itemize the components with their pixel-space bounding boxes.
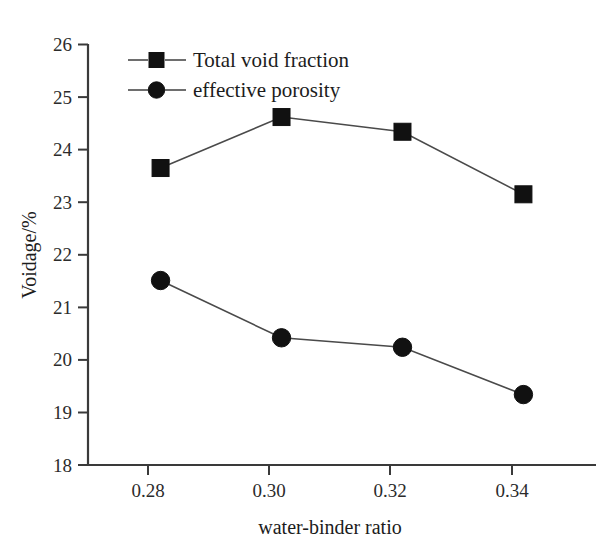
series-line-effective-porosity (161, 281, 524, 395)
x-tick-label-3: 0.34 (495, 480, 529, 501)
data-point-marker (152, 160, 169, 177)
circle-marker-icon (148, 82, 164, 98)
data-point-marker (515, 186, 532, 203)
y-tick-label-24: 24 (53, 139, 73, 160)
legend-label-0: Total void fraction (193, 48, 349, 72)
y-tick-label-25: 25 (53, 87, 72, 108)
y-axis-ticks (78, 45, 88, 466)
y-tick-label-20: 20 (53, 349, 72, 370)
y-tick-label-23: 23 (53, 192, 72, 213)
x-axis-ticks (148, 465, 512, 475)
y-tick-label-21: 21 (53, 297, 72, 318)
y-tick-label-26: 26 (53, 34, 72, 55)
legend-item-effective-porosity[interactable]: effective porosity (128, 78, 341, 102)
y-tick-label-19: 19 (53, 402, 72, 423)
legend-item-total-void-fraction[interactable]: Total void fraction (128, 48, 349, 72)
chart-figure: 26 25 24 23 22 21 20 19 18 0.28 0.30 0.3… (0, 0, 607, 551)
series-line-total-void-fraction (161, 117, 524, 194)
x-axis-title: water-binder ratio (258, 516, 401, 538)
data-point-marker (514, 385, 532, 403)
x-tick-label-2: 0.32 (373, 480, 406, 501)
y-axis-title: Voidage/% (18, 211, 41, 298)
series-markers-total-void-fraction (152, 109, 532, 203)
data-point-marker (151, 271, 169, 289)
series-markers-effective-porosity (151, 271, 532, 403)
y-tick-label-18: 18 (53, 455, 72, 476)
data-point-marker (273, 109, 290, 126)
data-point-marker (393, 338, 411, 356)
x-tick-label-0: 0.28 (131, 480, 164, 501)
x-tick-label-1: 0.30 (252, 480, 285, 501)
data-point-marker (394, 123, 411, 140)
data-point-marker (272, 329, 290, 347)
square-marker-icon (149, 53, 164, 68)
line-chart-canvas: 26 25 24 23 22 21 20 19 18 0.28 0.30 0.3… (0, 0, 607, 551)
legend: Total void fraction effective porosity (128, 48, 349, 102)
y-axis-tick-labels: 26 25 24 23 22 21 20 19 18 (53, 34, 73, 476)
x-axis-tick-labels: 0.28 0.30 0.32 0.34 (131, 480, 529, 501)
legend-label-1: effective porosity (193, 78, 341, 102)
y-tick-label-22: 22 (53, 244, 72, 265)
